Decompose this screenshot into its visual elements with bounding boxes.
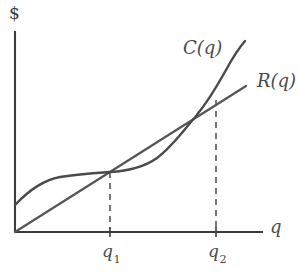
x-tick-label-q2: q2 (208, 243, 226, 264)
x-axis-label: q (270, 218, 282, 236)
chart-canvas (0, 0, 299, 271)
q1-base: q (102, 241, 113, 261)
cost-revenue-chart: $ C(q) R(q) q q1 q2 (0, 0, 299, 271)
revenue-line-label: R(q) (257, 72, 296, 90)
x-tick-label-q1: q1 (102, 243, 120, 264)
y-axis-label: $ (9, 5, 20, 22)
cost-curve-label: C(q) (183, 39, 222, 57)
q2-base: q (208, 241, 219, 261)
cost-curve (15, 41, 245, 205)
q1-subscript: 1 (113, 253, 120, 266)
q2-subscript: 2 (219, 253, 226, 266)
revenue-line (15, 86, 246, 232)
